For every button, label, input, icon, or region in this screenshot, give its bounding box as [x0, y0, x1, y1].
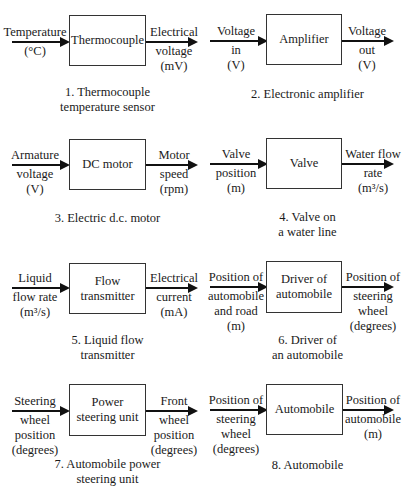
input-label-bottom: in (V): [205, 43, 267, 73]
output-label-top: Position of: [339, 393, 407, 408]
input-label-bottom: flow rate (m³/s): [0, 290, 70, 320]
output-arrow: [342, 286, 392, 288]
output-label-bottom: speed (rpm): [144, 167, 204, 197]
output-label-bottom: wheel position (degrees): [144, 413, 204, 458]
input-label-bottom: steering wheel (degrees): [205, 412, 267, 457]
output-arrow: [146, 287, 196, 289]
input-label-top: Steering: [0, 394, 70, 409]
output-label-bottom: automobile (m): [339, 412, 407, 442]
input-label-bottom: wheel position (degrees): [0, 413, 70, 458]
output-arrow: [342, 163, 392, 165]
output-label-bottom: current (mA): [144, 290, 204, 320]
output-arrow: [342, 40, 392, 42]
diagram-power-steering: Steering wheel position (degrees) Power …: [0, 370, 205, 491]
output-label-top: Voltage: [341, 24, 393, 39]
diagram-caption: 5. Liquid flow transmitter: [40, 333, 175, 363]
output-label-top: Motor: [144, 148, 204, 163]
diagram-caption: 6. Driver of an automobile: [245, 333, 370, 363]
diagram-caption: 4. Valve on a water line: [245, 210, 370, 240]
diagram-dc-motor: Armature voltage (V) DC motor Motor spee…: [0, 120, 205, 242]
diagram-valve: Valve position (m) Valve Water flow rate…: [205, 120, 410, 242]
diagram-thermocouple: Temperature (°C) Thermocouple Electrical…: [0, 0, 205, 122]
diagram-caption: 1. Thermocouple temperature sensor: [40, 85, 175, 115]
block-thermocouple: Thermocouple: [69, 15, 146, 66]
output-label-bottom: rate (m³/s): [339, 166, 407, 196]
diagram-caption: 8. Automobile: [245, 458, 370, 473]
output-label-top: Position of: [339, 270, 407, 285]
block-automobile: Automobile: [266, 384, 343, 435]
input-label-top: Valve: [205, 147, 267, 162]
diagram-driver: Position of automobile and road (m) Driv…: [205, 245, 410, 367]
input-arrow: [12, 410, 68, 412]
input-arrow: [210, 40, 266, 42]
output-label-bottom: voltage (mV): [144, 44, 204, 74]
input-label-top: Position of: [205, 393, 267, 408]
block-flow-transmitter: Flow transmitter: [69, 263, 146, 314]
output-label-bottom: out (V): [341, 43, 393, 73]
input-label-top: Armature: [0, 148, 70, 163]
input-arrow: [210, 409, 266, 411]
diagram-amplifier: Voltage in (V) Amplifier Voltage out (V)…: [205, 0, 410, 122]
output-arrow: [146, 41, 196, 43]
input-label-bottom: voltage (V): [0, 167, 70, 197]
input-arrow: [12, 287, 68, 289]
diagram-caption: 3. Electric d.c. motor: [35, 211, 180, 226]
block-dc-motor: DC motor: [69, 139, 146, 190]
diagram-flow-transmitter: Liquid flow rate (m³/s) Flow transmitter…: [0, 245, 205, 367]
output-label-top: Electrical: [144, 271, 204, 286]
diagram-automobile: Position of steering wheel (degrees) Aut…: [205, 370, 410, 491]
input-arrow: [210, 286, 266, 288]
input-label-top: Liquid: [0, 271, 70, 286]
block-valve: Valve: [266, 138, 342, 189]
input-label-bottom: automobile and road (m): [205, 289, 267, 334]
input-arrow: [12, 41, 68, 43]
input-label-top: Temperature: [0, 25, 70, 40]
input-label-top: Position of: [205, 270, 267, 285]
diagram-caption: 2. Electronic amplifier: [235, 87, 380, 102]
output-label-top: Water flow: [339, 147, 407, 162]
output-arrow: [146, 410, 196, 412]
block-driver: Driver of automobile: [266, 261, 342, 313]
input-label-top: Voltage: [205, 24, 267, 39]
input-arrow: [210, 163, 266, 165]
output-arrow: [343, 409, 392, 411]
block-amplifier: Amplifier: [266, 14, 342, 65]
input-label-bottom: position (m): [205, 166, 267, 196]
output-label-top: Front: [144, 394, 204, 409]
block-power-steering: Power steering unit: [69, 384, 146, 436]
input-arrow: [12, 164, 68, 166]
output-label-top: Electrical: [144, 25, 204, 40]
input-label-bottom: (°C): [0, 44, 70, 59]
output-arrow: [146, 164, 196, 166]
diagram-caption: 7. Automobile power steering unit: [30, 457, 185, 487]
output-label-bottom: steering wheel (degrees): [339, 289, 407, 334]
